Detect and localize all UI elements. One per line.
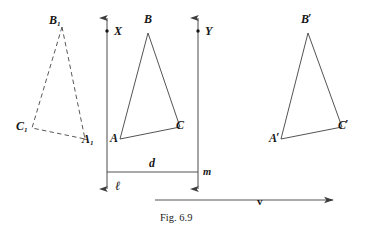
mirror-line-m [196, 18, 199, 189]
figure-6-9: X Y ℓ m B1 C1 A1 B A C B′ A′ C′ d v Fig.… [0, 0, 370, 232]
label-point-y: Y [205, 25, 212, 37]
label-line-m: m [203, 167, 211, 178]
triangle-a1b1c1 [32, 27, 85, 139]
triangle-a-prime-b-prime-c-prime [281, 33, 342, 139]
label-vertex-a1: A1 [82, 133, 94, 145]
figure-canvas [0, 0, 370, 232]
label-line-l: ℓ [115, 180, 120, 193]
label-vertex-a: A [110, 132, 118, 144]
label-point-x: X [114, 25, 122, 37]
figure-caption: Fig. 6.9 [160, 212, 192, 223]
label-vector-v: v [257, 196, 263, 207]
label-vertex-c-prime: C′ [338, 119, 349, 131]
label-distance-d: d [149, 157, 155, 169]
label-vertex-b: B [144, 13, 152, 25]
label-vertex-a-prime: A′ [269, 132, 280, 144]
triangle-abc [120, 33, 180, 139]
point-x-marker [105, 29, 108, 32]
label-vertex-b1: B1 [49, 14, 61, 26]
label-vertex-b-prime: B′ [301, 13, 312, 25]
label-vertex-c1: C1 [16, 120, 28, 132]
point-y-marker [196, 29, 199, 32]
label-vertex-c: C [176, 119, 184, 131]
mirror-line-l [105, 18, 108, 189]
